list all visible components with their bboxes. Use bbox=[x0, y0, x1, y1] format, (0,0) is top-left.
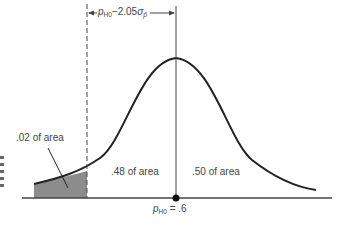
mean-point bbox=[173, 195, 180, 202]
cropped-text-fragment bbox=[0, 177, 4, 180]
mean-label: pH0 = .6 bbox=[153, 203, 187, 215]
cropped-text-fragment bbox=[0, 163, 4, 166]
middle-left-area-label: .48 of area bbox=[111, 166, 159, 177]
shaded-rejection-region bbox=[34, 171, 87, 198]
cropped-text-fragment bbox=[0, 170, 4, 173]
distance-label: pH0−2.05σp̄ bbox=[98, 6, 147, 18]
middle-right-area-label: .50 of area bbox=[192, 166, 240, 177]
normal-curve-diagram bbox=[0, 0, 344, 225]
left-tail-area-label: .02 of area bbox=[16, 132, 64, 143]
bell-curve bbox=[34, 58, 316, 190]
cropped-text-fragment bbox=[0, 184, 4, 187]
cropped-text-fragment bbox=[0, 156, 4, 159]
